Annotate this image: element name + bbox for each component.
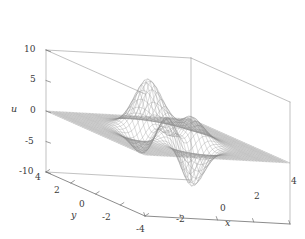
y-tick-label: 0: [79, 200, 85, 209]
x-tick-label: 2: [254, 192, 260, 201]
z-tick-label: 10: [24, 45, 35, 54]
z-tick-label: 5: [30, 75, 36, 84]
x-tick-label: 4: [291, 177, 297, 186]
x-tick-label: -2: [176, 215, 185, 224]
figure-3d-surface-plot: 10 5 0 -5 -10 4 2 0 -2 -4 -2 0 2 4 x y u: [0, 0, 305, 239]
z-tick-label: 0: [30, 106, 36, 115]
z-tick-label: -5: [25, 137, 34, 146]
surface-wireframe-mesh: [46, 79, 290, 186]
y-axis-title: y: [71, 210, 76, 220]
x-axis-title: x: [225, 218, 230, 228]
surface-plot-canvas: [0, 0, 305, 239]
y-tick-label: 2: [54, 186, 60, 195]
y-tick-label: -2: [102, 213, 111, 222]
x-tick-label: 0: [220, 204, 226, 213]
z-axis-title: u: [11, 104, 17, 114]
z-tick-label: -10: [19, 167, 34, 176]
y-tick-label: 4: [35, 173, 41, 182]
y-tick-label: -4: [136, 225, 145, 234]
